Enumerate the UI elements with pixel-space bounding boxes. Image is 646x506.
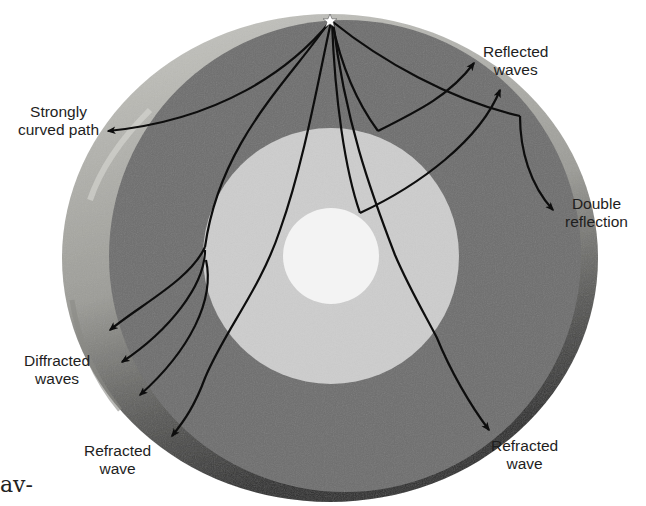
label-line: wave <box>84 460 151 478</box>
label-line: waves <box>24 370 90 388</box>
label-strongly-curved-path: Strongly curved path <box>18 103 99 139</box>
label-line: wave <box>491 455 558 473</box>
label-diffracted-waves: Diffracted waves <box>24 352 90 388</box>
label-reflected-waves: Reflected waves <box>483 43 548 79</box>
label-line: Refracted <box>84 442 151 460</box>
label-line: Diffracted <box>24 352 90 370</box>
inner-core <box>283 208 379 304</box>
label-line: waves <box>483 61 548 79</box>
label-line: curved path <box>18 121 99 139</box>
label-line: Refracted <box>491 437 558 455</box>
label-refracted-wave-left: Refracted wave <box>84 442 151 478</box>
earth-cross-section-diagram <box>0 0 646 506</box>
label-line: reflection <box>565 213 628 231</box>
label-line: Reflected <box>483 43 548 61</box>
label-double-reflection: Double reflection <box>565 195 628 231</box>
label-refracted-wave-right: Refracted wave <box>491 437 558 473</box>
label-line: Strongly <box>18 103 99 121</box>
cut-body-text-fragment: av- <box>0 472 33 497</box>
label-line: Double <box>565 195 628 213</box>
